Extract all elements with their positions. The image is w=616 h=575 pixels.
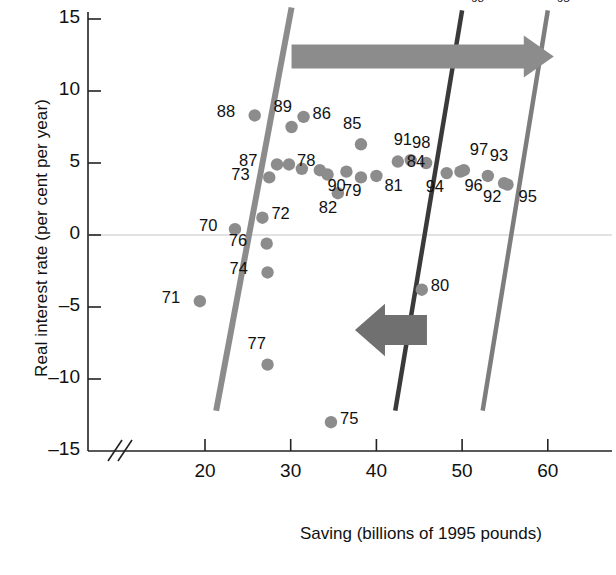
supply-curve-SS95 [483, 10, 548, 410]
point-label-74: 74 [230, 259, 248, 278]
point-label-87: 87 [239, 151, 257, 170]
point-label-75: 75 [340, 409, 358, 428]
data-point-80 [416, 284, 428, 296]
y-tick--5: –5 [24, 294, 80, 316]
data-point-71 [194, 295, 206, 307]
point-label-70: 70 [199, 216, 217, 235]
data-point-75 [325, 416, 337, 428]
data-point-95 [501, 178, 513, 190]
data-point-72 [256, 212, 268, 224]
y-tick-15: 15 [24, 6, 80, 28]
x-tick-20: 20 [185, 460, 225, 482]
point-label-76: 76 [229, 231, 247, 250]
point-label-92: 92 [483, 187, 501, 206]
point-label-98: 98 [412, 133, 430, 152]
scatter-chart: Real interest rate (per cent per year) S… [0, 0, 616, 575]
point-label-77: 77 [248, 334, 266, 353]
rightward-shift-arrow [292, 35, 554, 77]
y-tick-0: 0 [24, 222, 80, 244]
leftward-shift-arrow [355, 304, 427, 357]
point-label-95: 95 [519, 187, 537, 206]
ss-label-text: SS [450, 0, 471, 1]
supply-curve-label-SS70: SS70 [280, 0, 314, 2]
point-label-89: 89 [274, 97, 292, 116]
point-label-91: 91 [394, 130, 412, 149]
axes [88, 12, 612, 451]
supply-curve-label-SS98: SS98 [450, 0, 484, 5]
data-point-74 [261, 266, 273, 278]
y-tick--10: –10 [24, 366, 80, 388]
data-point-73 [263, 171, 275, 183]
x-tick-50: 50 [442, 460, 482, 482]
data-point-89 [285, 121, 297, 133]
ss-label-sub: 95 [557, 0, 570, 5]
point-label-88: 88 [217, 102, 235, 121]
point-label-90: 90 [327, 176, 345, 195]
chart-canvas [0, 0, 616, 575]
data-point-87 [271, 158, 283, 170]
point-label-81: 81 [384, 176, 402, 195]
point-label-72: 72 [271, 204, 289, 223]
x-axis-label: Saving (billions of 1995 pounds) [300, 524, 616, 544]
point-label-97: 97 [470, 140, 488, 159]
point-label-85: 85 [343, 114, 361, 133]
y-tick--15: –15 [24, 438, 80, 460]
point-label-80: 80 [431, 276, 449, 295]
data-point-88 [249, 109, 261, 121]
supply-curve-SS98 [395, 10, 462, 410]
point-label-78: 78 [297, 151, 315, 170]
supply-curve-label-SS95: SS95 [536, 0, 570, 5]
point-label-86: 86 [313, 104, 331, 123]
x-tick-60: 60 [528, 460, 568, 482]
data-point-77 [261, 358, 273, 370]
point-label-94: 94 [426, 177, 444, 196]
point-label-82: 82 [319, 198, 337, 217]
x-tick-30: 30 [271, 460, 311, 482]
data-point-97 [458, 164, 470, 176]
data-point-84 [392, 155, 404, 167]
point-label-93: 93 [490, 146, 508, 165]
point-label-71: 71 [162, 288, 180, 307]
data-point-76 [261, 237, 273, 249]
ss-label-sub: 98 [471, 0, 484, 5]
x-tick-40: 40 [356, 460, 396, 482]
point-label-84: 84 [407, 152, 425, 171]
data-point-81 [370, 170, 382, 182]
y-tick-10: 10 [24, 78, 80, 100]
data-point-85 [355, 138, 367, 150]
y-tick-5: 5 [24, 150, 80, 172]
data-point-86 [297, 111, 309, 123]
point-label-96: 96 [464, 176, 482, 195]
data-point-78 [283, 158, 295, 170]
ss-label-text: SS [536, 0, 557, 1]
ss-label-sub: 70 [301, 0, 314, 2]
data-point-93 [482, 170, 494, 182]
